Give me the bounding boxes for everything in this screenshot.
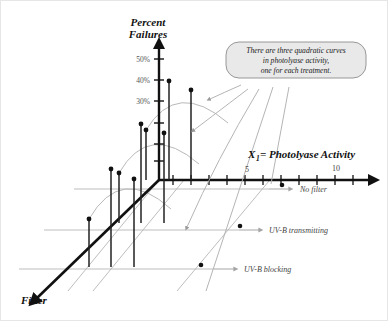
floor-depth-line-3 [177,181,269,291]
filter-axis-title: Filter [20,294,47,306]
series-no-filter [144,79,194,180]
floor-depth-line-2 [93,180,184,291]
callout-box: There are three quadratic curves in phot… [226,42,366,78]
data-point [117,171,122,176]
series-label-uvb-blocking: UV-B blocking [244,265,291,274]
y-axis-title-line1: Percent [131,16,167,28]
percent-failures-axis [154,48,164,180]
data-point [109,167,114,172]
y-tick-label-40: 40% [136,76,150,85]
callout-line-2: in photolyase activity, [263,56,330,65]
data-point [162,131,167,136]
x-tick-label-5: 5 [245,165,249,174]
data-point [144,128,149,133]
three-d-scatter-plot: There are three quadratic curves in phot… [1,1,387,320]
series-end-point [280,183,285,188]
floor-depth-line-1 [68,180,159,291]
leader-to-no-filter [210,85,241,99]
data-point [139,122,144,127]
series-label-uvb-transmitting: UV-B transmitting [269,226,328,235]
y-tick-label-30: 30% [136,97,150,106]
x-axis-title-symbol: X [247,148,256,160]
leader-diagonal-2 [271,87,289,184]
leader-to-uvb-transmitting [194,89,248,130]
data-point [167,79,172,84]
x-tick-label-10: 10 [332,164,340,173]
curve-uvb-blocking [89,189,171,219]
callout-line-3: one for each treatment. [261,66,332,75]
data-point [87,217,92,222]
y-axis-title-line2: Failures [128,28,168,40]
callout-line-1: There are three quadratic curves [246,46,346,55]
data-point [132,177,137,182]
figure-container: There are three quadratic curves in phot… [0,0,388,321]
y-tick-label-50: 50% [136,55,150,64]
data-point [189,88,194,93]
series-end-point [238,224,243,229]
floor-plane-grid [19,180,269,291]
series-end-point [199,263,204,268]
x-axis-title-text: = Photolyase Activity [260,148,355,160]
series-label-no-filter: No filter [299,185,328,194]
